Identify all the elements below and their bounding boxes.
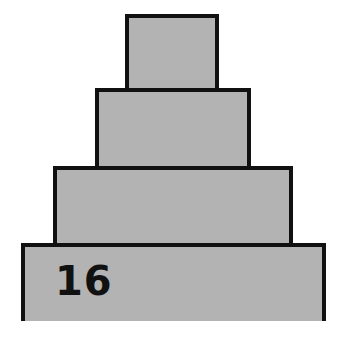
tier-second	[95, 88, 251, 170]
tier-bottom-label: 16	[55, 261, 113, 301]
tier-bottom: 16	[21, 243, 326, 321]
tier-third	[53, 166, 293, 247]
tier-top	[125, 14, 219, 92]
